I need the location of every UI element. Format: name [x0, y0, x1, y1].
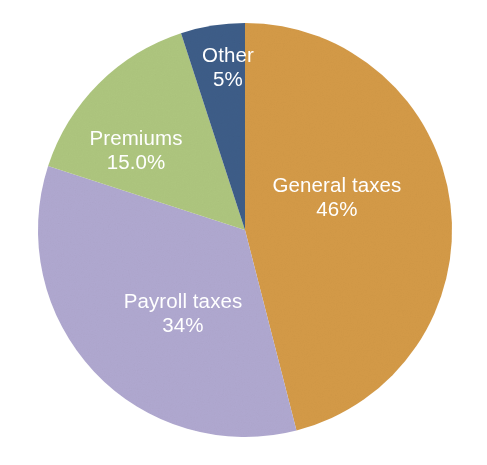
slice-label-general-taxes: General taxes: [273, 173, 402, 196]
paper-grain-texture: [0, 0, 487, 465]
slice-value-payroll-taxes: 34%: [162, 313, 203, 336]
slice-value-premiums: 15.0%: [107, 150, 166, 173]
slice-label-other: Other: [202, 43, 254, 66]
slice-label-payroll-taxes: Payroll taxes: [124, 289, 243, 312]
pie-chart-canvas: General taxes 46% Payroll taxes 34% Prem…: [0, 0, 487, 465]
pie-chart-figure: General taxes 46% Payroll taxes 34% Prem…: [0, 0, 487, 465]
slice-label-premiums: Premiums: [89, 126, 182, 149]
slice-value-general-taxes: 46%: [316, 197, 357, 220]
slice-value-other: 5%: [213, 67, 243, 90]
